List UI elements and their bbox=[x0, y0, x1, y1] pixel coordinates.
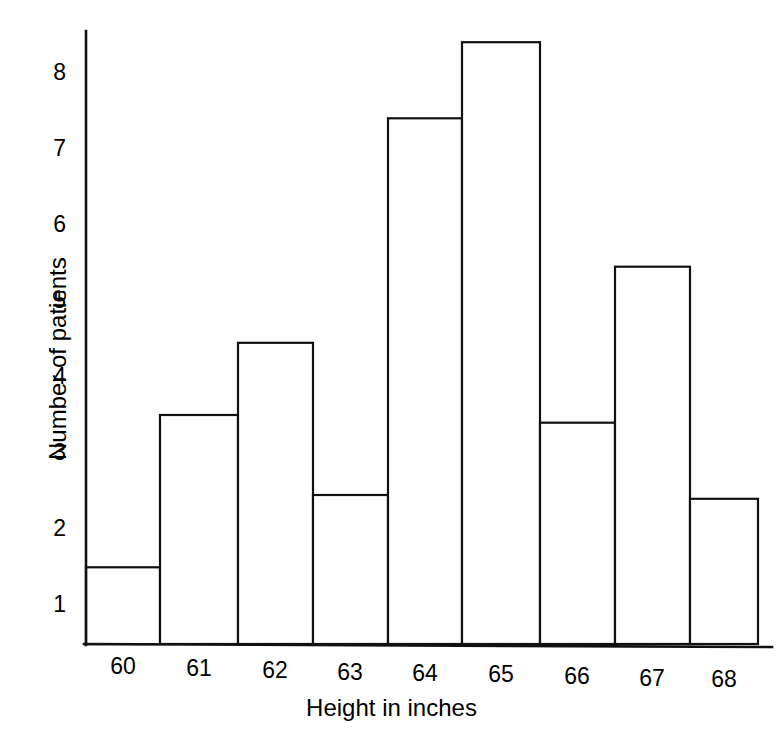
bar-64 bbox=[388, 118, 462, 644]
bar-63 bbox=[313, 495, 388, 644]
xtick-label-66: 66 bbox=[547, 665, 607, 688]
xtick-label-62: 62 bbox=[245, 659, 305, 682]
xtick-label-60: 60 bbox=[93, 655, 153, 678]
x-axis-title: Height in inches bbox=[0, 694, 783, 722]
xtick-label-61: 61 bbox=[169, 657, 229, 680]
xtick-label-67: 67 bbox=[622, 667, 682, 690]
ytick-label-7: 7 bbox=[36, 137, 66, 160]
xtick-label-68: 68 bbox=[694, 668, 754, 691]
plot-area bbox=[0, 0, 783, 743]
bars-group bbox=[86, 42, 758, 644]
bar-65 bbox=[462, 42, 540, 644]
bar-61 bbox=[160, 415, 238, 644]
bar-68 bbox=[690, 499, 758, 644]
bar-60 bbox=[86, 567, 160, 644]
bar-62 bbox=[238, 343, 313, 644]
bar-66 bbox=[540, 423, 615, 644]
histogram-figure: 8 7 6 5 4 3 2 1 60 61 62 63 64 65 66 67 … bbox=[0, 0, 783, 743]
ytick-label-6: 6 bbox=[36, 213, 66, 236]
ytick-label-2: 2 bbox=[36, 517, 66, 540]
xtick-label-64: 64 bbox=[395, 662, 455, 685]
xtick-label-63: 63 bbox=[320, 661, 380, 684]
ytick-label-1: 1 bbox=[36, 593, 66, 616]
xtick-label-65: 65 bbox=[471, 663, 531, 686]
y-axis-title: Number of patients bbox=[44, 257, 72, 460]
bar-67 bbox=[615, 267, 690, 644]
ytick-label-8: 8 bbox=[36, 61, 66, 84]
